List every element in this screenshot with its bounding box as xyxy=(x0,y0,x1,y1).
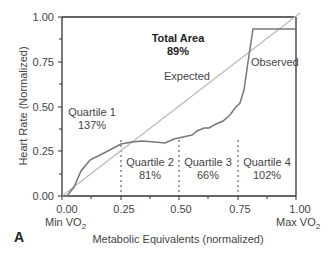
svg-text:0.25: 0.25 xyxy=(33,145,54,157)
chart-canvas: 1.00 0.75 0.50 0.25 0.00 0.00 0.25 0.50 … xyxy=(0,0,336,257)
svg-text:0.75: 0.75 xyxy=(229,203,250,215)
x-axis-title: Metabolic Equivalents (normalized) xyxy=(92,233,263,245)
svg-text:0.50: 0.50 xyxy=(170,203,191,215)
y-tick-labels: 1.00 0.75 0.50 0.25 0.00 xyxy=(33,11,54,202)
quartile-2-label: Quartile 2 xyxy=(126,156,174,168)
y-axis-title: Heart Rate (Normalized) xyxy=(17,46,29,165)
max-vo2-label: Max VO2 xyxy=(276,216,321,231)
svg-text:1.00: 1.00 xyxy=(33,11,54,23)
quartile-3-value: 66% xyxy=(197,169,219,181)
quartile-dividers xyxy=(121,140,238,196)
quartile-1-value: 137% xyxy=(78,119,106,131)
svg-text:0.00: 0.00 xyxy=(33,190,54,202)
svg-text:0.50: 0.50 xyxy=(33,101,54,113)
observed-label: Observed xyxy=(251,56,299,68)
panel-label: A xyxy=(14,229,24,245)
quartile-4-label: Quartile 4 xyxy=(243,156,291,168)
expected-label: Expected xyxy=(164,70,210,82)
quartile-2-value: 81% xyxy=(139,169,161,181)
quartile-3-label: Quartile 3 xyxy=(184,156,232,168)
svg-text:0.75: 0.75 xyxy=(33,56,54,68)
total-area-value: 89% xyxy=(167,45,189,57)
x-tick-labels: 0.00 0.25 0.50 0.75 1.00 xyxy=(56,203,310,215)
svg-text:0.00: 0.00 xyxy=(56,203,77,215)
svg-text:0.25: 0.25 xyxy=(113,203,134,215)
total-area-title: Total Area xyxy=(152,32,205,44)
min-vo2-label: Min VO2 xyxy=(45,216,87,231)
quartile-4-value: 102% xyxy=(253,169,281,181)
quartile-1-label: Quartile 1 xyxy=(68,106,116,118)
svg-text:1.00: 1.00 xyxy=(289,203,310,215)
